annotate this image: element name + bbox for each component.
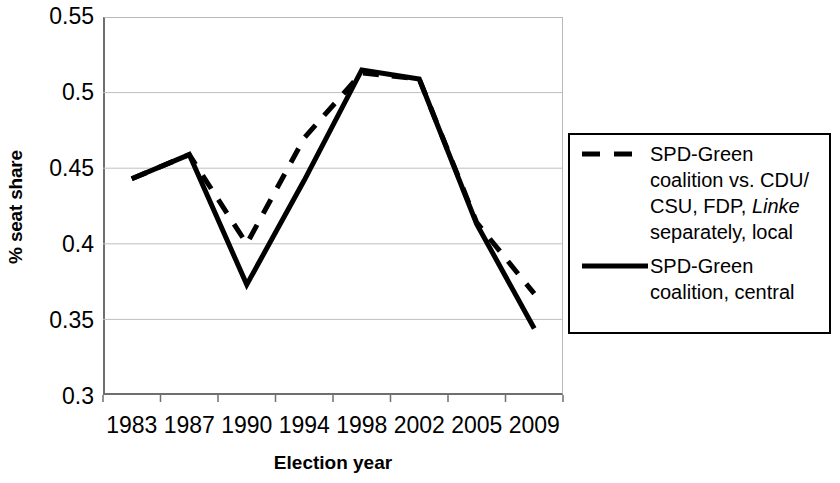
legend-label-solid-line1: SPD-Green bbox=[650, 255, 753, 277]
x-tick-label-6: 2005 bbox=[448, 412, 506, 438]
x-axis-tick-labels: 19831987199019941998200220052009 bbox=[103, 412, 563, 442]
x-tick-label-2: 1990 bbox=[218, 412, 276, 438]
x-tick-label-0: 1983 bbox=[103, 412, 161, 438]
legend-label-solid-line2: coalition, central bbox=[650, 281, 795, 303]
x-tick-label-7: 2009 bbox=[506, 412, 564, 438]
x-tick-label-5: 2002 bbox=[391, 412, 449, 438]
legend-swatch-solid-icon bbox=[578, 253, 650, 279]
y-tick-label-1: 0.5 bbox=[28, 81, 94, 104]
legend-label-dashed-line3-italic: Linke bbox=[752, 195, 800, 217]
plot-area bbox=[103, 17, 563, 395]
y-tick-label-3: 0.4 bbox=[28, 233, 94, 256]
legend-label-dashed-line1: SPD-Green bbox=[650, 143, 753, 165]
legend-label-dashed-line2: coalition vs. CDU/ bbox=[650, 169, 809, 191]
legend-label-solid: SPD-Green coalition, central bbox=[650, 253, 829, 305]
legend-label-dashed: SPD-Green coalition vs. CDU/ CSU, FDP, L… bbox=[650, 141, 829, 245]
series-lines bbox=[103, 17, 563, 395]
x-axis-title: Election year bbox=[103, 452, 563, 474]
legend-entry-dashed: SPD-Green coalition vs. CDU/ CSU, FDP, L… bbox=[570, 141, 829, 245]
legend-label-dashed-line3-pre: CSU, FDP, bbox=[650, 195, 752, 217]
chart-figure: % seat share 0.55 0.5 0.45 0.4 0.35 0.3 … bbox=[0, 0, 840, 483]
legend-label-dashed-line4: separately, local bbox=[650, 221, 793, 243]
y-tick-label-0: 0.55 bbox=[28, 5, 94, 28]
y-axis-tick-labels: 0.55 0.5 0.45 0.4 0.35 0.3 bbox=[24, 0, 94, 400]
x-tick-label-4: 1998 bbox=[333, 412, 391, 438]
chart-legend: SPD-Green coalition vs. CDU/ CSU, FDP, L… bbox=[568, 133, 831, 334]
legend-entry-solid: SPD-Green coalition, central bbox=[570, 253, 829, 305]
series-line-dashed bbox=[132, 73, 535, 294]
y-tick-label-2: 0.45 bbox=[28, 157, 94, 180]
y-tick-label-4: 0.35 bbox=[28, 309, 94, 332]
x-tick-label-1: 1987 bbox=[161, 412, 219, 438]
y-tick-label-5: 0.3 bbox=[28, 385, 94, 408]
x-tick-label-3: 1994 bbox=[276, 412, 334, 438]
legend-swatch-dashed-icon bbox=[578, 141, 650, 167]
